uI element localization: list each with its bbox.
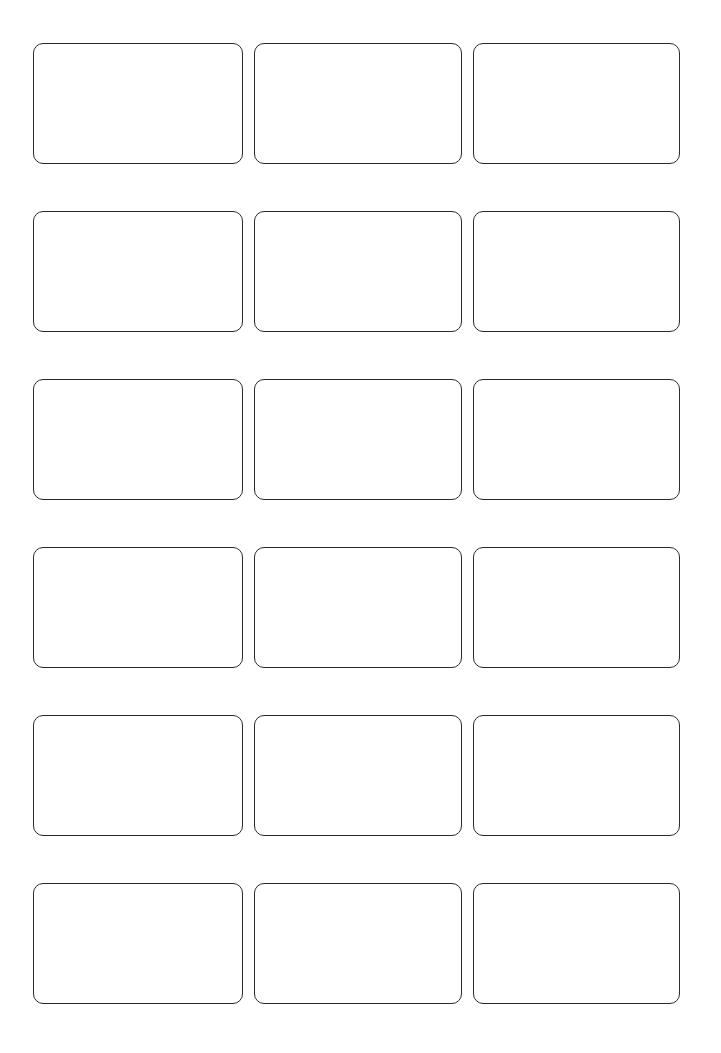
label-cell <box>33 883 243 1004</box>
label-cell <box>254 43 462 164</box>
label-cell <box>254 379 462 500</box>
label-cell <box>254 547 462 668</box>
label-cell <box>473 883 680 1004</box>
label-grid <box>33 43 680 1004</box>
label-cell <box>33 547 243 668</box>
label-cell <box>473 379 680 500</box>
label-cell <box>254 211 462 332</box>
label-cell <box>33 379 243 500</box>
label-cell <box>254 883 462 1004</box>
label-cell <box>33 211 243 332</box>
label-cell <box>254 715 462 836</box>
label-cell <box>473 43 680 164</box>
label-cell <box>473 211 680 332</box>
label-cell <box>33 43 243 164</box>
label-sheet-page <box>0 0 721 1053</box>
label-cell <box>473 715 680 836</box>
label-cell <box>473 547 680 668</box>
label-cell <box>33 715 243 836</box>
